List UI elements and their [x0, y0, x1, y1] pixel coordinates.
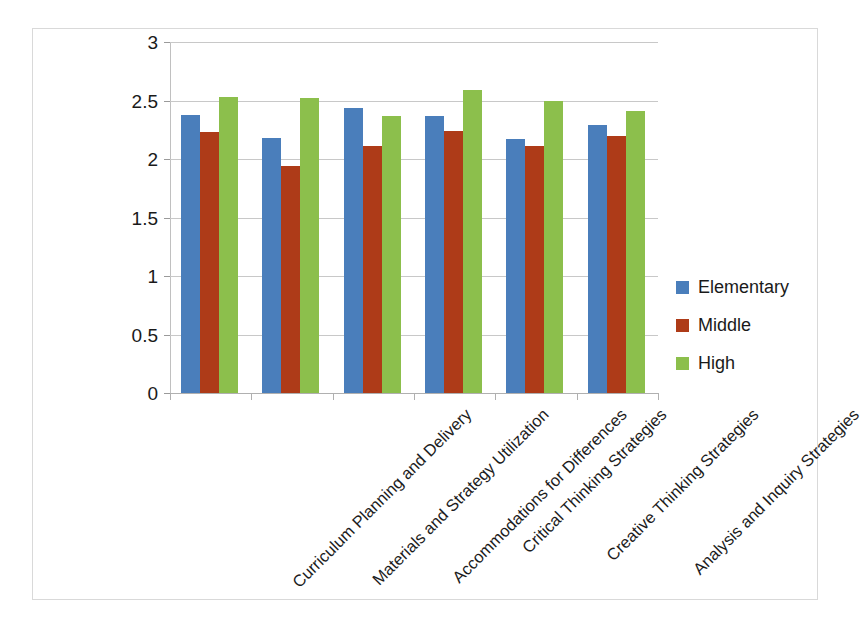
x-axis-category-label: Analysis and Inquiry Strategies: [690, 405, 863, 578]
y-axis-tick-mark: [164, 101, 170, 102]
y-axis-tick-mark: [164, 335, 170, 336]
y-axis-tick-mark: [164, 276, 170, 277]
x-axis-tick-mark: [495, 394, 496, 400]
legend-item[interactable]: Elementary: [676, 268, 806, 306]
x-axis-tick-mark: [414, 394, 415, 400]
y-axis-tick-mark: [164, 159, 170, 160]
x-axis-tick-mark: [577, 394, 578, 400]
y-axis-tick-mark: [164, 42, 170, 43]
x-axis-tick-mark: [251, 394, 252, 400]
x-axis-tick-mark: [170, 394, 171, 400]
legend-color-swatch: [676, 281, 689, 294]
legend-item[interactable]: Middle: [676, 306, 806, 344]
legend-color-swatch: [676, 357, 689, 370]
legend-item-label: Elementary: [698, 277, 789, 298]
legend-item[interactable]: High: [676, 344, 806, 382]
x-axis-category-label: Accommodations for Differences: [449, 405, 630, 586]
chart-legend: ElementaryMiddleHigh: [676, 268, 806, 382]
legend-color-swatch: [676, 319, 689, 332]
x-axis-tick-mark: [658, 394, 659, 400]
legend-item-label: High: [698, 353, 735, 374]
x-axis-tick-mark: [333, 394, 334, 400]
legend-item-label: Middle: [698, 315, 751, 336]
y-axis-tick-mark: [164, 218, 170, 219]
